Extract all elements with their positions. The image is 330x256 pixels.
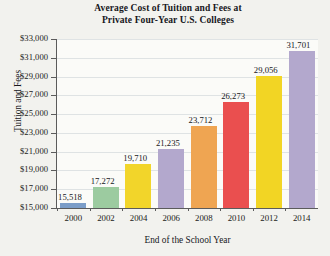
bar-value-label: 15,518 bbox=[48, 193, 92, 202]
chart-title: Average Cost of Tuition and Fees at Priv… bbox=[18, 3, 318, 26]
y-tick-label: $25,000 bbox=[20, 109, 48, 118]
bar[interactable] bbox=[191, 126, 217, 208]
bar[interactable] bbox=[93, 187, 119, 208]
bar-value-label: 26,273 bbox=[211, 92, 255, 101]
bar-value-label: 21,235 bbox=[146, 139, 190, 148]
bar[interactable] bbox=[289, 51, 315, 208]
y-tick-mark bbox=[51, 58, 57, 59]
x-tick-mark bbox=[285, 208, 286, 211]
y-tick-mark bbox=[51, 170, 57, 171]
x-tick-mark bbox=[122, 208, 123, 211]
y-tick-label: $23,000 bbox=[20, 128, 48, 137]
x-tick-mark bbox=[155, 208, 156, 211]
chart-title-line-2: Private Four-Year U.S. Colleges bbox=[18, 15, 318, 27]
bar-slot: 31,701 bbox=[285, 39, 318, 208]
y-tick-label: $15,000 bbox=[20, 203, 48, 212]
bar-value-label: 31,701 bbox=[276, 41, 320, 50]
y-tick-mark bbox=[51, 95, 57, 96]
y-tick-mark bbox=[51, 133, 57, 134]
y-tick-label: $27,000 bbox=[20, 90, 48, 99]
bar-slot: 19,710 bbox=[122, 39, 155, 208]
x-tick-label: 2014 bbox=[280, 213, 324, 223]
bar-slot: 23,712 bbox=[188, 39, 221, 208]
bar-value-label: 29,056 bbox=[244, 66, 288, 75]
y-tick-mark bbox=[51, 152, 57, 153]
bar-slot: 26,273 bbox=[220, 39, 253, 208]
bar-value-label: 23,712 bbox=[179, 116, 223, 125]
y-tick-label: $29,000 bbox=[20, 72, 48, 81]
y-tick-mark bbox=[51, 77, 57, 78]
y-tick-label: $19,000 bbox=[20, 165, 48, 174]
bar-slot: 29,056 bbox=[253, 39, 286, 208]
y-axis-line bbox=[56, 39, 57, 209]
x-tick-mark bbox=[253, 208, 254, 211]
y-tick-label: $31,000 bbox=[20, 53, 48, 62]
bar[interactable] bbox=[223, 102, 249, 208]
y-tick-mark bbox=[51, 114, 57, 115]
x-tick-mark bbox=[188, 208, 189, 211]
y-tick-label: $33,000 bbox=[20, 34, 48, 43]
x-tick-mark bbox=[90, 208, 91, 211]
bar[interactable] bbox=[256, 76, 282, 208]
bar-value-label: 19,710 bbox=[113, 154, 157, 163]
bar-slot: 17,272 bbox=[90, 39, 123, 208]
x-tick-mark bbox=[57, 208, 58, 211]
y-tick-mark bbox=[51, 189, 57, 190]
y-tick-mark bbox=[51, 39, 57, 40]
x-tick-mark bbox=[220, 208, 221, 211]
plot-area: 15,51817,27219,71021,23523,71226,27329,0… bbox=[57, 39, 318, 208]
y-tick-label: $21,000 bbox=[20, 147, 48, 156]
y-axis-title: Tuition and Fees bbox=[13, 41, 23, 161]
bar[interactable] bbox=[158, 149, 184, 208]
chart-figure: Average Cost of Tuition and Fees at Priv… bbox=[0, 0, 330, 256]
chart-title-line-1: Average Cost of Tuition and Fees at bbox=[18, 3, 318, 15]
bar[interactable] bbox=[125, 164, 151, 208]
bar-value-label: 17,272 bbox=[81, 177, 125, 186]
y-tick-label: $17,000 bbox=[20, 184, 48, 193]
x-axis-title: End of the School Year bbox=[57, 235, 318, 245]
